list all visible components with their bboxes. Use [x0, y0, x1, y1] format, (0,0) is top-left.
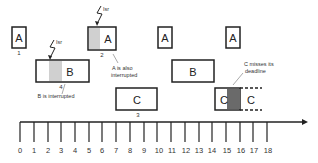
tick-label: 15 [223, 146, 231, 155]
tick-label: 18 [264, 146, 272, 155]
tick-label: 13 [195, 146, 203, 155]
tick-label: 14 [208, 146, 216, 155]
tick-label: 12 [182, 146, 190, 155]
deadline-miss-region [227, 89, 240, 109]
b-interrupted-note: B is interrupted [38, 93, 75, 99]
isr-label: Isr [56, 39, 62, 45]
tick-label: 3 [59, 146, 63, 155]
task-a-4: A [226, 27, 240, 48]
tick-label: 17 [250, 146, 258, 155]
interrupt-region [49, 61, 62, 81]
c-deadline-note: deadline [245, 68, 266, 74]
task-label: C [247, 94, 255, 106]
c-deadline-note: C misses its [244, 61, 274, 67]
arrow-right-icon [302, 119, 308, 125]
task-label: A [161, 32, 169, 44]
timeline-axis: 0 1 2 3 4 5 6 7 8 9 10 11 12 13 14 15 16… [18, 119, 308, 155]
task-order: 2 [100, 52, 104, 58]
a-interrupted-note: A is also [112, 65, 132, 71]
scheduling-diagram: A 1 B 4 Isr B is interrupted A 2 Isr A i… [0, 0, 318, 163]
task-a-3: A [158, 27, 172, 48]
tick-label: 16 [237, 146, 245, 155]
tick-label: 5 [87, 146, 91, 155]
tick-label: 1 [32, 146, 36, 155]
task-order: 1 [17, 50, 21, 56]
tick-label: 10 [155, 146, 163, 155]
isr-label: Isr [103, 6, 109, 12]
a-interrupted-note: interrupted [111, 72, 137, 78]
task-b-interrupted: B 4 [36, 60, 89, 90]
task-label: A [229, 32, 237, 44]
task-label: C [220, 94, 228, 106]
task-order: 3 [136, 112, 140, 118]
tick-label: 7 [114, 146, 118, 155]
task-order: 4 [59, 84, 63, 90]
tick-label: 4 [73, 146, 77, 155]
task-a-1: A 1 [12, 27, 26, 56]
task-a-interrupted: A 2 [88, 27, 116, 58]
task-label: B [189, 66, 196, 78]
tick-label: 9 [142, 146, 146, 155]
tick-label: 0 [18, 146, 22, 155]
task-b-2: B [172, 60, 214, 82]
task-c-deadline-miss: C C [215, 88, 262, 110]
task-label: A [104, 33, 112, 45]
isr-lightning-icon: Isr [95, 6, 109, 26]
task-label: A [15, 32, 23, 44]
tick-label: 11 [168, 146, 176, 155]
tick-label: 2 [46, 146, 50, 155]
tick-label: 6 [100, 146, 104, 155]
task-c: C 3 [116, 88, 157, 118]
interrupt-region [89, 28, 100, 49]
task-label: C [133, 94, 141, 106]
task-label: B [66, 66, 73, 78]
isr-lightning-icon: Isr [48, 39, 62, 60]
tick-label: 8 [128, 146, 132, 155]
